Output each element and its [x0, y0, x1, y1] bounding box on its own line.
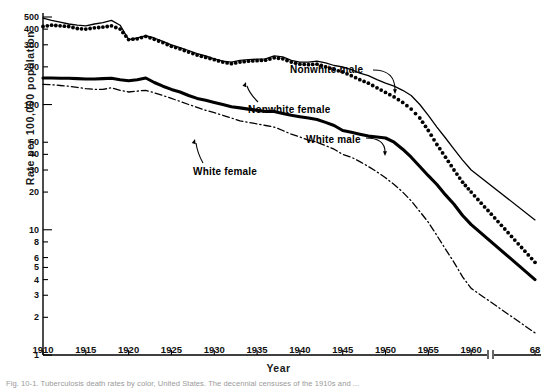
series-dot	[441, 151, 445, 155]
x-tick-label: 1910	[20, 344, 66, 355]
x-tick-label: 1950	[363, 344, 409, 355]
arrow-head-white-male	[383, 151, 387, 156]
series-dot	[375, 86, 379, 90]
series-dot	[41, 25, 45, 29]
series-dot	[469, 190, 473, 194]
arrow-white-male	[366, 138, 385, 152]
series-dot	[486, 209, 490, 213]
series-dot	[264, 58, 268, 62]
series-dot	[409, 107, 413, 111]
series-dot	[84, 27, 88, 31]
annotation-white-male: White male	[306, 134, 361, 145]
x-tick-label: 1945	[320, 344, 366, 355]
series-dot	[191, 52, 195, 56]
series-dot	[230, 62, 234, 66]
y-tick-label: 40	[5, 149, 39, 159]
series-dot	[520, 246, 524, 250]
y-tick-label: 200	[5, 62, 39, 72]
arrow-white-female	[196, 143, 203, 163]
series-dot	[225, 61, 229, 65]
series-dot	[170, 44, 174, 48]
x-tick-label: 1925	[148, 344, 194, 355]
series-dot	[397, 98, 401, 102]
series-dot	[388, 93, 392, 97]
series-dot	[187, 50, 191, 54]
series-dot	[444, 155, 448, 159]
series-dot	[124, 34, 128, 38]
series-dot	[135, 37, 139, 41]
x-tick-label: 1915	[63, 344, 109, 355]
series-dot	[174, 46, 178, 50]
series-dot	[455, 172, 459, 176]
series-dot	[260, 59, 264, 63]
x-tick-label: 1930	[191, 344, 237, 355]
annotation-white-female: White female	[193, 166, 257, 177]
y-tick-label: 300	[5, 40, 39, 50]
series-dot	[500, 223, 504, 227]
series-dot	[464, 184, 468, 188]
x-tick-label: 1935	[234, 344, 280, 355]
series-dot	[384, 91, 388, 95]
series-dot	[281, 57, 285, 61]
series-dot	[461, 180, 465, 184]
series-dot	[251, 59, 255, 63]
series-dot	[479, 201, 483, 205]
series-dot	[429, 133, 433, 137]
series-dot	[268, 57, 272, 61]
series-dot	[118, 27, 122, 31]
series-dot	[513, 238, 517, 242]
series-dot	[476, 198, 480, 202]
series-dot	[438, 147, 442, 151]
arrow-head-nonwhite-female	[242, 82, 246, 87]
series-dot	[358, 78, 362, 82]
series-dot	[105, 25, 109, 29]
series-dot	[157, 39, 161, 43]
x-tick-label: 1920	[106, 344, 152, 355]
series-dot	[414, 112, 418, 116]
series-dot	[418, 116, 422, 120]
series-dot	[424, 125, 428, 129]
series-dot	[71, 26, 75, 30]
series-dot	[496, 220, 500, 224]
series-dot	[426, 129, 430, 133]
y-tick-label: 2	[5, 312, 39, 322]
y-axis-tick-labels: 12345681020304050100200300400500	[5, 0, 39, 388]
series-dot	[458, 176, 462, 180]
series-dot	[178, 47, 182, 51]
y-tick-label: 100	[5, 100, 39, 110]
series-dot	[110, 24, 114, 28]
series-dot	[161, 41, 165, 45]
y-tick-label: 50	[5, 137, 39, 147]
series-dot	[212, 58, 216, 62]
arrow-nonwhite-female	[247, 86, 258, 102]
series-dot	[93, 26, 97, 30]
series-dot	[371, 84, 375, 88]
y-tick-label: 6	[5, 253, 39, 263]
series-dot	[483, 205, 487, 209]
series-dot	[446, 160, 450, 164]
series-dot	[392, 95, 396, 99]
annotation-nonwhite-female: Nonwhite female	[248, 104, 330, 115]
series-dot	[449, 164, 453, 168]
series-dot	[242, 60, 246, 64]
series-dot	[238, 60, 242, 64]
series-dot	[152, 37, 156, 41]
series-dot	[195, 53, 199, 57]
series-dot	[506, 231, 510, 235]
series-dot	[50, 23, 54, 27]
y-tick-label: 20	[5, 187, 39, 197]
series-dot	[88, 27, 92, 31]
series-dot	[379, 88, 383, 92]
x-tick-label: 68	[512, 344, 557, 355]
series-dot	[452, 168, 456, 172]
y-tick-label: 500	[5, 12, 39, 22]
y-tick-label: 3	[5, 290, 39, 300]
series-dot	[473, 194, 477, 198]
series-dot	[97, 26, 101, 30]
series-dot	[54, 24, 58, 28]
series-dot	[127, 38, 131, 42]
y-tick-label: 4	[5, 275, 39, 285]
series-dot	[367, 81, 371, 85]
arrow-head-white-female	[192, 139, 196, 144]
y-tick-label: 5	[5, 262, 39, 272]
